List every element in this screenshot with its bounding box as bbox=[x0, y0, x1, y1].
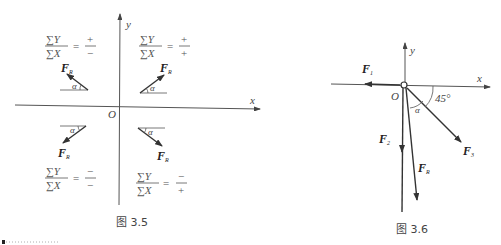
figure-3-5: x y O ∑Y ∑X = + − α FR ∑Y ∑X = + + bbox=[15, 14, 260, 229]
force-label: FR bbox=[159, 61, 172, 75]
x-axis-label: x bbox=[476, 72, 482, 84]
angle-alpha-label: α bbox=[415, 105, 420, 115]
angle-arc bbox=[78, 126, 80, 131]
diagram-canvas: x y O ∑Y ∑X = + − α FR ∑Y ∑X = + + bbox=[0, 0, 501, 245]
sum-y: ∑Y bbox=[46, 165, 62, 178]
sum-x: ∑X bbox=[46, 47, 62, 60]
force-label: FR bbox=[57, 146, 70, 160]
equals-sign: = bbox=[163, 177, 169, 189]
angle-arc bbox=[144, 128, 146, 133]
angle-arc bbox=[146, 88, 148, 93]
y-axis bbox=[119, 14, 120, 205]
angle-arc bbox=[80, 85, 81, 90]
origin-label: O bbox=[391, 90, 399, 102]
force-label: FR bbox=[156, 149, 169, 163]
quadrant-third: α FR ∑Y ∑X = − − bbox=[45, 125, 96, 192]
denominator-sign: − bbox=[87, 47, 93, 59]
force-label: FR bbox=[60, 61, 73, 75]
force-f3-arrow bbox=[407, 88, 461, 142]
numerator-sign: + bbox=[181, 33, 187, 45]
angle-45-label: 45° bbox=[435, 92, 451, 104]
sum-y: ∑Y bbox=[46, 33, 62, 46]
numerator-sign: − bbox=[178, 170, 184, 182]
resultant-force-arrow bbox=[67, 74, 88, 90]
x-axis bbox=[15, 105, 260, 109]
angle-label: α bbox=[150, 83, 155, 93]
angle-label: α bbox=[70, 125, 75, 135]
force-f2-label: F2 bbox=[378, 132, 390, 146]
x-axis bbox=[331, 84, 490, 87]
sum-y: ∑Y bbox=[137, 170, 153, 183]
denominator-sign: − bbox=[87, 179, 93, 191]
page-margin-mark bbox=[2, 240, 58, 244]
force-f3-label: F3 bbox=[462, 144, 474, 158]
force-fr-label: FR bbox=[417, 161, 430, 175]
numerator-sign: + bbox=[87, 33, 93, 45]
sum-x: ∑X bbox=[137, 184, 153, 197]
quadrant-second: ∑Y ∑X = + − α FR bbox=[45, 33, 96, 91]
equals-sign: = bbox=[73, 172, 79, 184]
force-f1-label: F1 bbox=[361, 62, 373, 76]
quadrant-fourth: α FR ∑Y ∑X = − + bbox=[136, 127, 187, 197]
equals-sign: = bbox=[73, 40, 79, 52]
sum-x: ∑X bbox=[140, 47, 156, 60]
sum-x: ∑X bbox=[46, 179, 62, 192]
x-axis-label: x bbox=[249, 94, 255, 106]
figure-caption: 图 3.6 bbox=[396, 223, 428, 236]
denominator-sign: + bbox=[181, 47, 187, 59]
angle-label: α bbox=[72, 81, 77, 91]
y-axis-label: y bbox=[409, 44, 415, 56]
y-axis-label: y bbox=[125, 18, 131, 30]
sum-y: ∑Y bbox=[140, 33, 156, 46]
angle-45-arc bbox=[425, 86, 433, 107]
figure-3-6: x y O F1 F2 FR F3 45° α 图 3.6 bbox=[331, 43, 490, 236]
origin-point bbox=[401, 82, 407, 88]
equals-sign: = bbox=[167, 40, 173, 52]
denominator-sign: + bbox=[178, 184, 184, 196]
quadrant-first: ∑Y ∑X = + + α FR bbox=[139, 33, 190, 93]
force-f1-arrow bbox=[365, 84, 400, 85]
angle-label: α bbox=[148, 127, 153, 137]
numerator-sign: − bbox=[87, 165, 93, 177]
figure-caption: 图 3.5 bbox=[116, 216, 148, 229]
origin-label: O bbox=[108, 108, 116, 120]
